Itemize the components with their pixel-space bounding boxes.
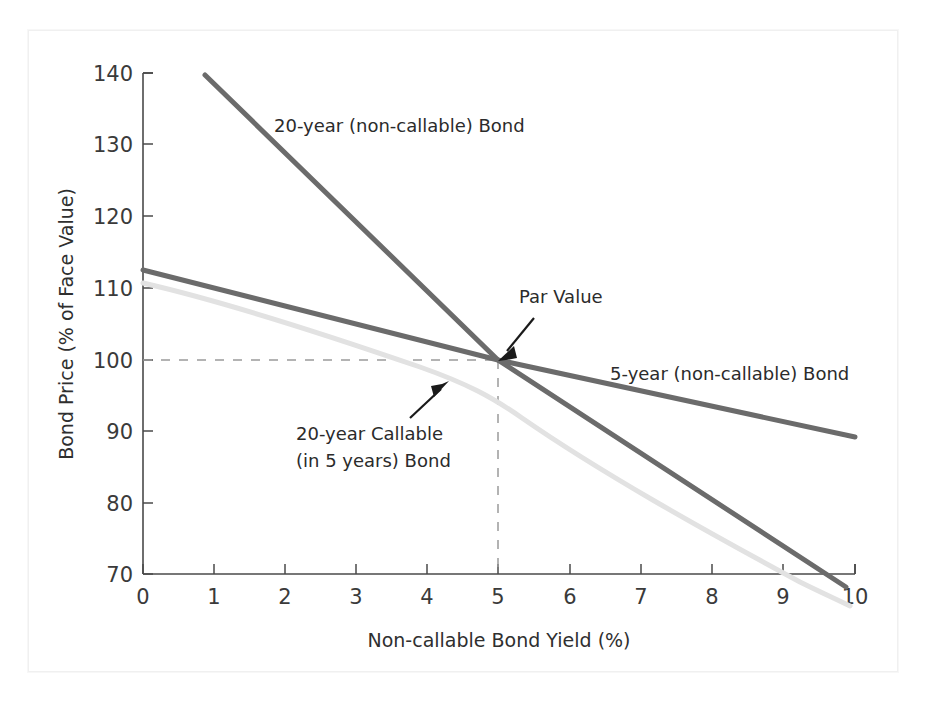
x-tick-label-8: 8 bbox=[705, 585, 718, 609]
y-axis-title: Bond Price (% of Face Value) bbox=[55, 188, 77, 460]
x-tick-label-3: 3 bbox=[349, 585, 362, 609]
annotation-20-year-callable-line2: (in 5 years) Bond bbox=[296, 450, 451, 471]
annotation-par-value: Par Value bbox=[519, 286, 603, 307]
annotation-20-year-non-callable: 20-year (non-callable) Bond bbox=[274, 115, 525, 136]
x-ticks bbox=[143, 564, 855, 574]
x-tick-label-9: 9 bbox=[776, 585, 789, 609]
x-tick-label-5: 5 bbox=[491, 585, 504, 609]
axes bbox=[143, 73, 855, 574]
y-tick-label-120: 120 bbox=[93, 205, 133, 229]
series-20-year-callable-bond bbox=[143, 283, 850, 606]
par-value-leader-line bbox=[507, 318, 534, 351]
series-5-year-non-callable-bond bbox=[143, 270, 855, 437]
bond-price-vs-yield-chart: 140 130 120 110 100 90 80 70 0 1 2 bbox=[0, 0, 928, 702]
x-tick-label-0: 0 bbox=[136, 585, 149, 609]
annotation-5-year-non-callable: 5-year (non-callable) Bond bbox=[610, 363, 849, 384]
x-tick-label-1: 1 bbox=[207, 585, 220, 609]
x-tick-label-4: 4 bbox=[420, 585, 433, 609]
y-ticks bbox=[143, 73, 153, 574]
y-tick-label-90: 90 bbox=[106, 420, 133, 444]
y-tick-label-100: 100 bbox=[93, 349, 133, 373]
annotation-20-year-callable-line1: 20-year Callable bbox=[296, 423, 443, 444]
y-tick-labels: 140 130 120 110 100 90 80 70 bbox=[93, 62, 133, 587]
y-tick-label-140: 140 bbox=[93, 62, 133, 86]
par-value-arrowhead bbox=[498, 346, 517, 361]
y-tick-label-80: 80 bbox=[106, 492, 133, 516]
y-tick-label-110: 110 bbox=[93, 277, 133, 301]
y-tick-label-130: 130 bbox=[93, 133, 133, 157]
x-tick-labels: 0 1 2 3 4 5 6 7 8 9 10 bbox=[136, 585, 868, 609]
data-series bbox=[143, 75, 855, 606]
x-tick-label-6: 6 bbox=[563, 585, 576, 609]
x-axis-title: Non-callable Bond Yield (%) bbox=[367, 629, 630, 651]
x-tick-label-2: 2 bbox=[278, 585, 291, 609]
series-20-year-non-callable-bond bbox=[205, 75, 846, 587]
y-tick-label-70: 70 bbox=[106, 563, 133, 587]
x-tick-label-7: 7 bbox=[634, 585, 647, 609]
figure-container: 140 130 120 110 100 90 80 70 0 1 2 bbox=[0, 0, 928, 702]
callable-arrowhead bbox=[431, 381, 449, 397]
